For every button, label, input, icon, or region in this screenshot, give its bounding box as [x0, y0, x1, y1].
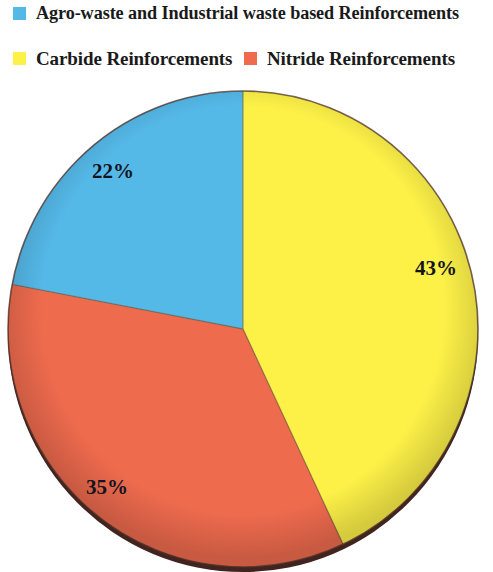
pie-data-label-agro-waste: 22%	[92, 161, 134, 182]
pie-data-label-nitride: 35%	[86, 477, 128, 498]
pie-data-label-carbide: 43%	[415, 258, 457, 279]
pie-chart-svg	[0, 0, 493, 572]
pie-rim-shading	[8, 91, 478, 567]
pie-chart-plot-area: 43% 22% 35%	[0, 0, 493, 572]
pie-chart-figure: Agro-waste and Industrial waste based Re…	[0, 0, 493, 572]
